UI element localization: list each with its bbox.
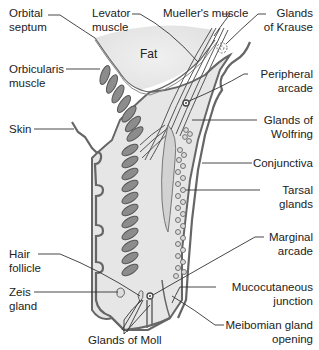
label-levator-muscle: Levator muscle — [92, 6, 130, 34]
label-meibomian-gland-opening: Meibomian gland opening — [225, 318, 313, 346]
label-skin: Skin — [9, 122, 31, 136]
label-tarsal-glands: Tarsal glands — [279, 183, 313, 211]
glands-of-krause-cluster — [217, 43, 227, 53]
label-conjunctiva: Conjunctiva — [253, 156, 313, 170]
label-glands-of-krause: Glands of Krause — [264, 6, 313, 34]
label-marginal-arcade: Marginal arcade — [269, 230, 313, 258]
label-peripheral-arcade: Peripheral arcade — [261, 67, 313, 95]
eyelid-diagram: Fat Orbital septum Orbicularis muscle Sk… — [0, 0, 319, 350]
zeis-gland-shape — [117, 288, 125, 297]
label-zeis-gland: Zeis gland — [9, 285, 37, 313]
label-orbital-septum: Orbital septum — [9, 6, 47, 34]
fat-label: Fat — [140, 47, 157, 61]
label-glands-of-wolfring: Glands of Wolfring — [264, 113, 313, 141]
label-orbicularis-muscle: Orbicularis muscle — [9, 62, 64, 90]
label-muellers-muscle: Mueller's muscle — [163, 6, 248, 20]
label-glands-of-moll: Glands of Moll — [88, 333, 162, 347]
label-mucocutaneous-junction: Mucocutaneous junction — [232, 280, 313, 308]
label-hair-follicle: Hair follicle — [9, 247, 41, 275]
